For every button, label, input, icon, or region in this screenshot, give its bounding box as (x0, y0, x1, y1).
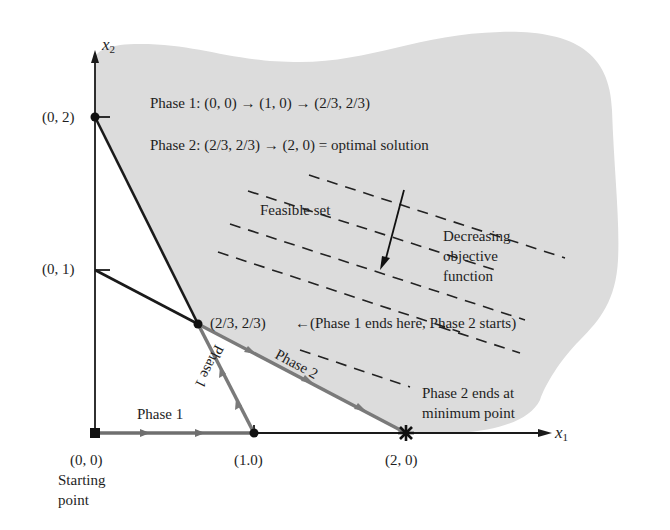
path-arrow-icon (140, 429, 150, 437)
y-axis-label: x2 (102, 36, 115, 58)
path-arrow-icon (195, 429, 205, 437)
starting-point-marker (90, 428, 100, 438)
y-axis-label-base: x (102, 35, 110, 54)
phase2-ends-label-2: minimum point (422, 405, 515, 422)
x-axis-label-sub: 1 (563, 431, 569, 443)
feasible-region (95, 32, 618, 433)
label-point-1-0: (1.0) (234, 452, 263, 469)
label-starting: Starting (58, 472, 106, 489)
vertex-0-2 (91, 113, 100, 122)
label-point-2over3: (2/3, 2/3) (210, 315, 266, 332)
vertex-1-0 (250, 429, 259, 438)
x-axis-arrow-icon (538, 429, 552, 437)
optimal-point-star-icon (398, 425, 414, 441)
phase2-ends-label-1: Phase 2 ends at (422, 385, 514, 402)
x-axis-label-base: x (555, 423, 563, 442)
phase2-summary: Phase 2: (2/3, 2/3) → (2, 0) = optimal s… (150, 137, 429, 154)
phase1-ends-label: ←(Phase 1 ends here, Phase 2 starts) (295, 315, 516, 332)
decreasing-label-3: function (443, 268, 493, 285)
diagram-canvas (0, 0, 670, 530)
phase1-summary: Phase 1: (0, 0) → (1, 0) → (2/3, 2/3) (150, 95, 370, 112)
label-point-0-2: (0, 2) (42, 109, 75, 126)
vertex-2over3 (194, 320, 203, 329)
label-point: point (58, 492, 89, 509)
decreasing-label-2: objective (443, 248, 498, 265)
x-axis-label: x1 (555, 424, 568, 446)
label-point-origin: (0, 0) (70, 452, 103, 469)
label-point-0-1: (0, 1) (42, 261, 75, 278)
label-point-2-0: (2, 0) (385, 452, 418, 469)
y-axis-label-sub: 2 (110, 43, 116, 55)
feasible-set-label: Feasible set (260, 202, 330, 219)
decreasing-label-1: Decreasing (443, 228, 510, 245)
phase1-horizontal-label: Phase 1 (137, 406, 183, 423)
